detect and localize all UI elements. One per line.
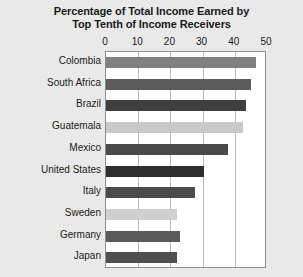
y-axis-category-labels: ColombiaSouth AfricaBrazilGuatemalaMexic…	[0, 51, 101, 268]
x-tick-label-10: 10	[132, 36, 143, 47]
x-tick-label-30: 30	[196, 36, 207, 47]
category-label-germany: Germany	[0, 229, 101, 240]
category-label-japan: Japan	[0, 250, 101, 261]
bar-south-africa	[106, 79, 251, 90]
category-label-south-africa: South Africa	[0, 77, 101, 88]
plot-area	[105, 51, 266, 268]
category-label-colombia: Colombia	[0, 55, 101, 66]
category-label-united-states: United States	[0, 164, 101, 175]
category-label-sweden: Sweden	[0, 207, 101, 218]
category-label-brazil: Brazil	[0, 98, 101, 109]
bar-brazil	[106, 100, 246, 111]
bar-germany	[106, 231, 180, 242]
x-tick-label-40: 40	[228, 36, 239, 47]
category-label-mexico: Mexico	[0, 142, 101, 153]
x-tick-label-20: 20	[164, 36, 175, 47]
x-tick-label-0: 0	[102, 36, 108, 47]
category-label-guatemala: Guatemala	[0, 120, 101, 131]
bar-italy	[106, 187, 195, 198]
bar-japan	[106, 252, 177, 263]
bar-mexico	[106, 144, 228, 155]
chart-title: Percentage of Total Income Earned by Top…	[0, 5, 303, 31]
bar-united-states	[106, 166, 204, 177]
bar-guatemala	[106, 122, 243, 133]
chart-title-line-2: Top Tenth of Income Receivers	[0, 18, 303, 31]
category-label-italy: Italy	[0, 185, 101, 196]
chart-title-line-1: Percentage of Total Income Earned by	[0, 5, 303, 18]
bar-colombia	[106, 57, 256, 68]
bar-sweden	[106, 209, 177, 220]
x-tick-label-50: 50	[260, 36, 271, 47]
x-axis-tick-labels: 01020304050	[0, 36, 303, 50]
income-distribution-bar-chart: Percentage of Total Income Earned by Top…	[0, 0, 303, 277]
